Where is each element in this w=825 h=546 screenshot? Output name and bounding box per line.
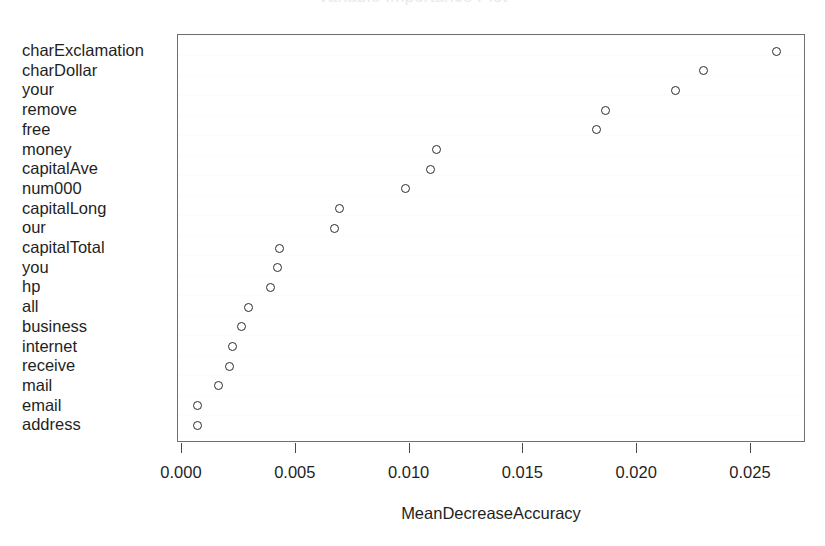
data-point bbox=[601, 106, 610, 115]
y-axis-label: num000 bbox=[22, 180, 82, 197]
data-point bbox=[225, 362, 234, 371]
y-axis-label: email bbox=[22, 396, 61, 413]
x-axis-tick bbox=[295, 443, 296, 453]
x-axis-tick-label: 0.020 bbox=[616, 463, 657, 482]
data-point bbox=[228, 342, 237, 351]
x-axis-title: MeanDecreaseAccuracy bbox=[177, 504, 805, 523]
data-point bbox=[426, 165, 435, 174]
y-axis-label: address bbox=[22, 416, 81, 433]
data-point bbox=[193, 421, 202, 430]
y-axis-label: money bbox=[22, 140, 72, 157]
data-point bbox=[273, 263, 282, 272]
y-axis-label: mail bbox=[22, 377, 52, 394]
data-point bbox=[244, 303, 253, 312]
x-axis-tick bbox=[522, 443, 523, 453]
x-axis-tick-label: 0.010 bbox=[388, 463, 429, 482]
y-axis-label: our bbox=[22, 219, 46, 236]
plot-panel bbox=[177, 34, 805, 442]
data-point bbox=[671, 86, 680, 95]
x-axis-tick-label: 0.025 bbox=[729, 463, 770, 482]
data-point bbox=[772, 47, 781, 56]
y-axis-label: capitalLong bbox=[22, 199, 106, 216]
variable-importance-chart: Variable Importance Plot charExclamation… bbox=[0, 0, 825, 546]
data-point bbox=[592, 125, 601, 134]
x-axis-tick-label: 0.005 bbox=[274, 463, 315, 482]
chart-title: Variable Importance Plot bbox=[0, 0, 825, 7]
y-axis-label: capitalAve bbox=[22, 160, 98, 177]
x-axis-tick-label: 0.000 bbox=[160, 463, 201, 482]
scan-noise-overlay bbox=[178, 35, 804, 441]
x-axis-tick bbox=[750, 443, 751, 453]
y-axis-label: charExclamation bbox=[22, 42, 144, 59]
x-axis-tick bbox=[181, 443, 182, 453]
y-axis-label: capitalTotal bbox=[22, 239, 105, 256]
data-point bbox=[237, 322, 246, 331]
y-axis-label: your bbox=[22, 81, 54, 98]
data-point bbox=[432, 145, 441, 154]
y-axis-label: receive bbox=[22, 357, 75, 374]
data-point bbox=[266, 283, 275, 292]
data-point bbox=[330, 224, 339, 233]
data-point bbox=[335, 204, 344, 213]
x-axis-tick-label: 0.015 bbox=[502, 463, 543, 482]
y-axis-label: charDollar bbox=[22, 61, 97, 78]
x-axis-tick bbox=[409, 443, 410, 453]
y-axis-label: remove bbox=[22, 101, 77, 118]
data-point bbox=[401, 184, 410, 193]
y-axis-label: you bbox=[22, 258, 49, 275]
y-axis-label: hp bbox=[22, 278, 40, 295]
y-axis-label: business bbox=[22, 318, 87, 335]
data-point bbox=[699, 66, 708, 75]
y-axis-label: all bbox=[22, 298, 39, 315]
data-point bbox=[275, 244, 284, 253]
data-point bbox=[193, 401, 202, 410]
y-axis-label: internet bbox=[22, 337, 77, 354]
x-axis-tick bbox=[636, 443, 637, 453]
y-axis-label: free bbox=[22, 121, 50, 138]
data-point bbox=[214, 381, 223, 390]
